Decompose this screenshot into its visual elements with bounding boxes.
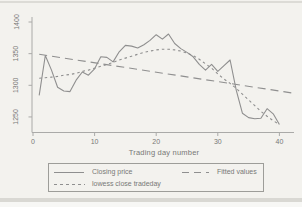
x-tick-label: 40 <box>276 138 284 145</box>
legend-label-lowess: lowess close tradeday <box>92 180 161 187</box>
y-tick-label: 1400 <box>13 14 20 30</box>
legend-label-closing-price: Closing price <box>92 168 132 175</box>
series-line-solid <box>39 34 279 125</box>
x-tick-label: 10 <box>91 138 99 145</box>
y-tick-label: 1300 <box>13 77 20 93</box>
x-axis-title: Trading day number <box>33 148 295 157</box>
legend-line-sample-closing-price <box>54 172 84 173</box>
legend-label-fitted-values: Fitted values <box>217 168 257 175</box>
legend-line-sample-lowess <box>54 184 85 185</box>
legend-line-sample-fitted-values <box>182 172 209 173</box>
series-line-short-dash <box>39 49 279 124</box>
legend-box: Closing price Fitted values lowess close… <box>48 163 264 192</box>
x-tick-label: 20 <box>152 138 160 145</box>
y-tick-label: 1250 <box>13 109 20 125</box>
chart-figure: 1250130013501400010203040 Trading day nu… <box>0 0 302 207</box>
y-tick-label: 1350 <box>13 46 20 62</box>
x-tick-label: 0 <box>31 138 35 145</box>
x-tick-label: 30 <box>214 138 222 145</box>
series-line-long-dash <box>39 54 292 93</box>
